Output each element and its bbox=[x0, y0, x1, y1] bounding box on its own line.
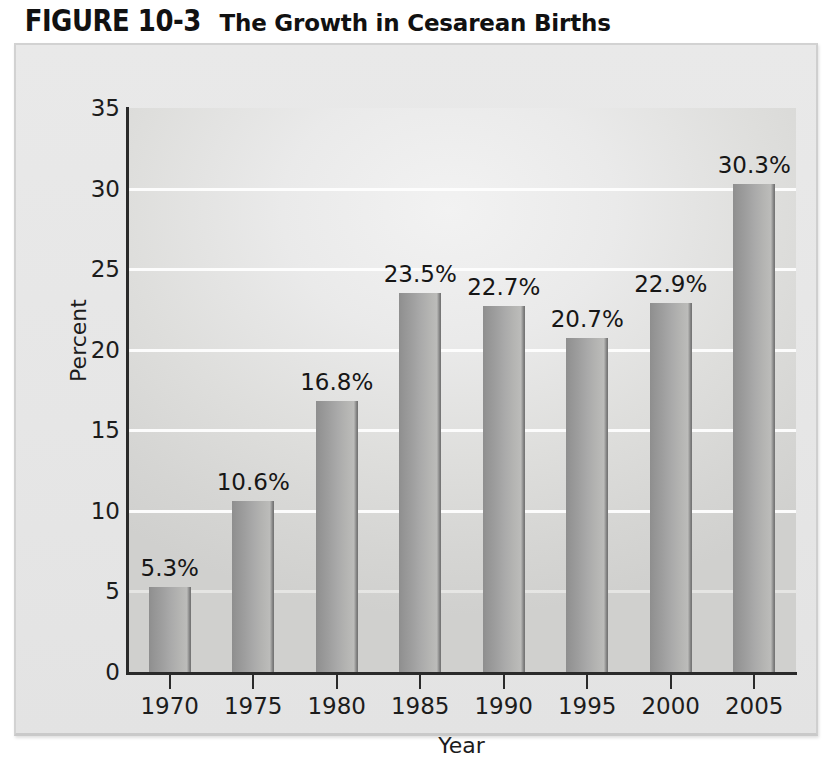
gridline bbox=[128, 188, 796, 191]
x-tick-label: 1990 bbox=[459, 693, 549, 719]
bar-value-label: 10.6% bbox=[198, 469, 308, 495]
figure-title: The Growth in Cesarean Births bbox=[220, 10, 611, 36]
x-axis-tick bbox=[503, 675, 505, 689]
bar bbox=[733, 184, 775, 672]
y-tick-label: 15 bbox=[62, 417, 120, 443]
x-axis-tick bbox=[670, 675, 672, 689]
x-axis-tick bbox=[586, 675, 588, 689]
x-tick-label: 2005 bbox=[709, 693, 799, 719]
x-tick-label: 1970 bbox=[125, 693, 215, 719]
figure-panel: 19705.3%197510.6%198016.8%198523.5%19902… bbox=[14, 43, 818, 736]
gridline bbox=[128, 510, 796, 513]
x-axis-title: Year bbox=[126, 733, 797, 758]
x-axis-tick bbox=[336, 675, 338, 689]
bar bbox=[232, 501, 274, 672]
figure-number: FIGURE 10-3 bbox=[25, 2, 201, 38]
y-tick-label: 35 bbox=[62, 95, 120, 121]
x-axis-tick bbox=[753, 675, 755, 689]
bar bbox=[483, 306, 525, 672]
bar-value-label: 22.7% bbox=[449, 274, 559, 300]
x-tick-label: 1995 bbox=[542, 693, 632, 719]
x-axis-tick bbox=[252, 675, 254, 689]
plot-area bbox=[128, 108, 796, 672]
gridline bbox=[128, 429, 796, 432]
y-tick-label: 10 bbox=[62, 498, 120, 524]
figure-container: FIGURE 10-3 The Growth in Cesarean Birth… bbox=[0, 0, 831, 759]
x-axis-tick bbox=[169, 675, 171, 689]
y-tick-label: 5 bbox=[62, 578, 120, 604]
y-tick-label: 30 bbox=[62, 176, 120, 202]
bar bbox=[149, 587, 191, 672]
bar-value-label: 30.3% bbox=[699, 152, 809, 178]
x-tick-label: 2000 bbox=[626, 693, 716, 719]
figure-title-bar: FIGURE 10-3 The Growth in Cesarean Birth… bbox=[18, 2, 818, 40]
bar-value-label: 16.8% bbox=[282, 369, 392, 395]
bar bbox=[650, 303, 692, 672]
bar bbox=[316, 401, 358, 672]
gridline bbox=[128, 349, 796, 352]
bar-value-label: 20.7% bbox=[532, 306, 642, 332]
x-tick-label: 1985 bbox=[375, 693, 465, 719]
bar bbox=[399, 293, 441, 672]
bar-value-label: 5.3% bbox=[115, 555, 225, 581]
y-tick-label: 0 bbox=[62, 659, 120, 685]
bar-value-label: 22.9% bbox=[616, 271, 726, 297]
x-axis-tick bbox=[419, 675, 421, 689]
y-axis-line bbox=[126, 107, 129, 674]
gridline bbox=[128, 590, 796, 593]
x-axis-line bbox=[126, 672, 797, 675]
x-tick-label: 1975 bbox=[208, 693, 298, 719]
y-axis-title: Percent bbox=[66, 271, 91, 411]
bar bbox=[566, 338, 608, 672]
x-tick-label: 1980 bbox=[292, 693, 382, 719]
